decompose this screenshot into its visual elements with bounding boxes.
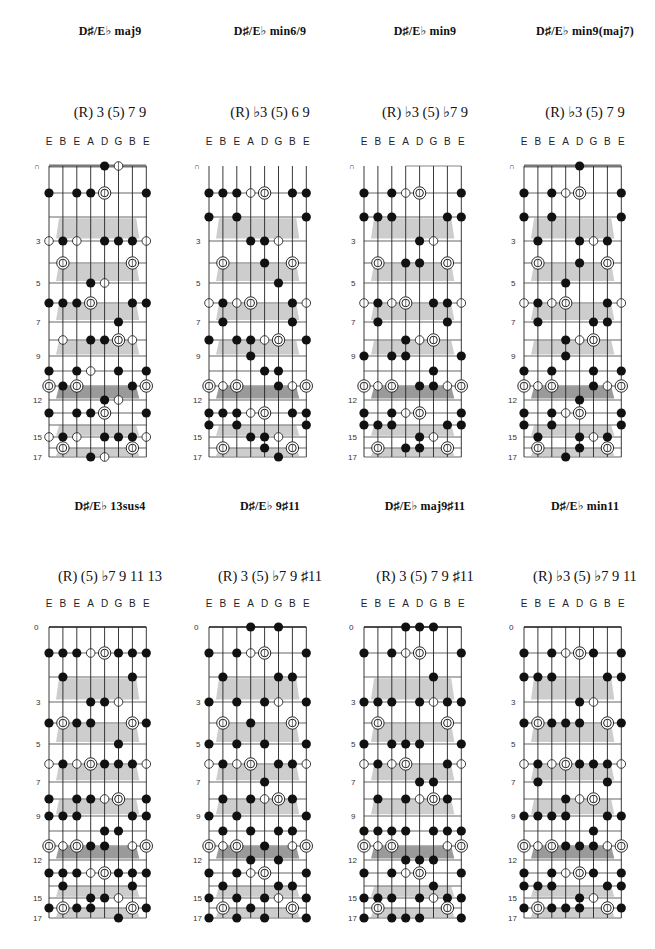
chord-tone-dot [142, 811, 151, 820]
chord-tone-dot [232, 868, 241, 877]
fret-inlay-band [531, 678, 614, 699]
chord-tone-dot [387, 648, 396, 657]
fret-inlay-band [56, 800, 139, 814]
fret-number: 15 [348, 894, 357, 903]
chord-tone-dot [533, 777, 542, 786]
chord-tone-dot [617, 881, 626, 890]
string-name: G [275, 598, 283, 609]
chord-tone-dot [260, 893, 269, 902]
chord-tone-dot [415, 893, 424, 902]
chord-tone-dot [617, 648, 626, 657]
fret-inlay-band [56, 887, 139, 897]
chord-tone-dot [246, 855, 255, 864]
chord-tone-dot [128, 648, 137, 657]
chord-tone-dot [519, 811, 528, 820]
chord-tone-dot [204, 868, 213, 877]
chord-tone-dot [373, 826, 382, 835]
fret-inlay-band [216, 847, 299, 859]
chord-tone-dot [561, 794, 570, 803]
string-name: B [444, 598, 451, 609]
fret-number: 3 [351, 698, 356, 707]
chord-tone-dot [204, 811, 213, 820]
fret-number: 7 [351, 778, 356, 787]
string-name: D [261, 598, 268, 609]
chord-tone-dot [589, 841, 598, 850]
chord-tone-dot [204, 913, 213, 922]
fret-number: 3 [511, 698, 516, 707]
chord-tone-dot [260, 913, 269, 922]
string-name: E [143, 598, 150, 609]
fret-inlay-band [216, 678, 299, 699]
chord-tone-dot [100, 759, 109, 768]
fretboard-diagram: EBEADGBE03579121517 [30, 0, 190, 949]
chord-tone-dot [575, 718, 584, 727]
string-name: E [303, 598, 310, 609]
chord-tone-dot [86, 794, 95, 803]
chord-tone-dot [260, 739, 269, 748]
chord-tone-dot [44, 718, 53, 727]
chord-tone-dot [142, 903, 151, 912]
fretboard-diagram: EBEADGBE03579121517 [345, 0, 505, 949]
chord-tone-dot [415, 855, 424, 864]
chord-tone-dot [617, 903, 626, 912]
chord-tone-dot [86, 697, 95, 706]
chord-tone-dot [415, 913, 424, 922]
chord-tone-dot [359, 868, 368, 877]
chord-tone-dot [232, 739, 241, 748]
chord-tone-dot [114, 739, 123, 748]
chord-tone-dot [274, 826, 283, 835]
chord-tone-dot [429, 672, 438, 681]
chord-tone-dot [429, 855, 438, 864]
chord-tone-dot [415, 777, 424, 786]
string-name: G [430, 598, 438, 609]
chord-tone-dot [589, 759, 598, 768]
chord-tone-dot [561, 718, 570, 727]
chord-tone-dot [274, 759, 283, 768]
fret-inlay-band [371, 724, 454, 742]
string-name: E [548, 598, 555, 609]
string-name: E [206, 598, 213, 609]
fret-number: 9 [511, 812, 516, 821]
chord-tone-dot [274, 855, 283, 864]
chord-tone-dot [246, 622, 255, 631]
fret-inlay-band [216, 724, 299, 742]
chord-tone-dot [547, 672, 556, 681]
chord-tone-dot [415, 739, 424, 748]
chord-tone-dot [302, 739, 311, 748]
chord-tone-dot [443, 697, 452, 706]
chord-tone-dot [302, 648, 311, 657]
chord-tone-dot [401, 794, 410, 803]
chord-tone-dot [387, 913, 396, 922]
chord-tone-dot [457, 893, 466, 902]
fret-number: 9 [351, 812, 356, 821]
chord-tone-dot [288, 881, 297, 890]
string-name: E [233, 598, 240, 609]
chord-tone-dot [533, 881, 542, 890]
chord-tone-dot [302, 893, 311, 902]
chord-card: D♯/E♭ 13sus4(R) (5) ♭7 9 11 13EBEADGBE03… [30, 0, 190, 949]
chord-tone-dot [58, 672, 67, 681]
chord-tone-dot [359, 739, 368, 748]
chord-tone-dot [44, 648, 53, 657]
chord-tone-dot [246, 826, 255, 835]
chord-tone-dot [288, 672, 297, 681]
string-name: B [129, 598, 136, 609]
chord-tone-dot [100, 826, 109, 835]
chord-tone-dot [575, 697, 584, 706]
fret-inlay-band [56, 847, 139, 859]
chord-tone-dot [415, 697, 424, 706]
chord-tone-dot [128, 672, 137, 681]
chord-tone-dot [218, 759, 227, 768]
chord-tone-dot [232, 648, 241, 657]
chord-tone-dot [373, 697, 382, 706]
string-name: G [590, 598, 598, 609]
chord-tone-dot [114, 826, 123, 835]
fret-inlay-band [216, 887, 299, 897]
fret-inlay-band [531, 724, 614, 742]
fret-inlay-band [531, 800, 614, 814]
chord-tone-dot [204, 697, 213, 706]
string-name: D [101, 598, 108, 609]
chord-tone-dot [617, 868, 626, 877]
chord-tone-dot [274, 881, 283, 890]
string-name: E [388, 598, 395, 609]
